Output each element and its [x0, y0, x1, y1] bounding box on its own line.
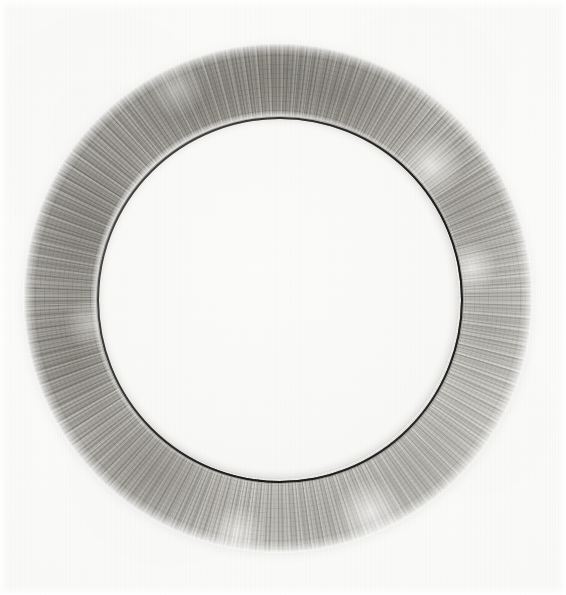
screenshot-canvas: Annular specimen scan Fibrous annulus / … [0, 0, 566, 595]
paper-white-margins [0, 0, 566, 595]
